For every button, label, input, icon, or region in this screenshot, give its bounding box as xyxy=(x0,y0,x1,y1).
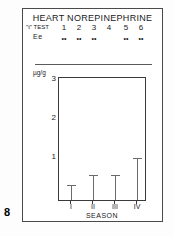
test-column-6: 6 xyxy=(136,23,146,32)
x-tick-label-season-4: IV xyxy=(129,203,145,211)
significance-dots-6: •• xyxy=(136,35,146,42)
figure-number: 8 xyxy=(4,206,10,218)
test-column-4: 4 xyxy=(104,23,114,32)
y-tick-label-1: 1 xyxy=(42,153,56,161)
figure-panel: HEART NOREPINEPHRINE "t" TEST Ee 1 2 3 4… xyxy=(22,8,163,222)
significance-dots-5: •• xyxy=(121,35,131,42)
test-column-5: 5 xyxy=(121,23,131,32)
significance-dots-3: •• xyxy=(89,35,99,42)
error-cap-season-4 xyxy=(133,158,142,159)
significance-test-matrix: "t" TEST Ee 1 2 3 4 5 6 •• •• •• •• •• xyxy=(23,24,162,50)
y-tick-label-2: 2 xyxy=(42,114,56,122)
ee-row-label: Ee xyxy=(33,33,43,40)
x-axis-title: SEASON xyxy=(58,212,146,219)
x-tick-label-season-2: II xyxy=(85,203,101,211)
bar-season-1 xyxy=(71,186,72,200)
test-column-1: 1 xyxy=(59,23,69,32)
bar-season-4 xyxy=(137,159,138,200)
error-cap-season-3 xyxy=(111,175,120,176)
header-divider xyxy=(35,64,152,65)
y-tick-label-3: 3 xyxy=(42,75,56,83)
figure-container: HEART NOREPINEPHRINE "t" TEST Ee 1 2 3 4… xyxy=(0,0,174,236)
t-test-label: "t" TEST xyxy=(26,24,49,30)
significance-dots-1: •• xyxy=(59,35,69,42)
test-column-3: 3 xyxy=(89,23,99,32)
figure-title: HEART NOREPINEPHRINE xyxy=(23,13,162,23)
error-cap-season-1 xyxy=(67,185,76,186)
x-tick-label-season-3: III xyxy=(107,203,123,211)
bar-season-2 xyxy=(93,176,94,200)
plot-area xyxy=(58,77,146,201)
x-tick-label-season-1: I xyxy=(63,203,79,211)
significance-dots-2: •• xyxy=(74,35,84,42)
test-column-2: 2 xyxy=(74,23,84,32)
bar-season-3 xyxy=(115,176,116,200)
error-cap-season-2 xyxy=(89,175,98,176)
